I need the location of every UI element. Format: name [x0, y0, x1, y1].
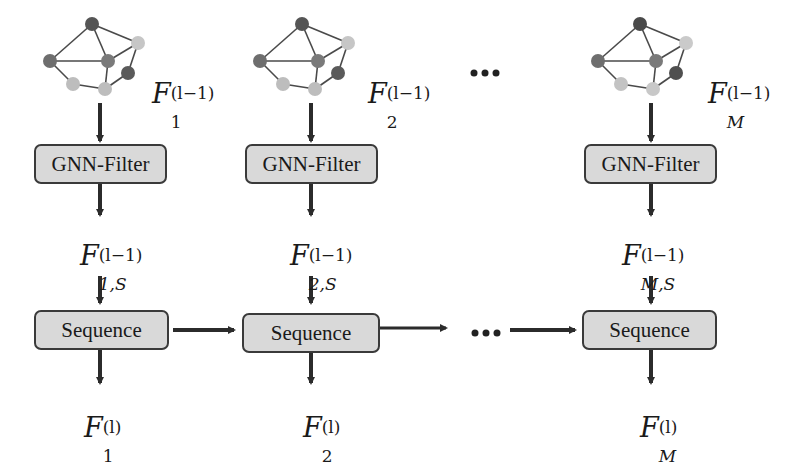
- gnn-filter-box-1[interactable]: GNN-Filter: [34, 144, 167, 184]
- sequence-box-1[interactable]: Sequence: [34, 310, 169, 350]
- graph-label-M: F(l−1)M: [708, 78, 727, 109]
- output-label-1: F(l)1: [84, 412, 103, 443]
- filtered-label-1: F(l−1)1,S: [80, 240, 99, 271]
- graph-label-2: F(l−1)2: [368, 78, 387, 109]
- sequence-box-M[interactable]: Sequence: [582, 310, 717, 350]
- filtered-label-M: F(l−1)M,S: [622, 240, 641, 271]
- filtered-label-2: F(l−1)2,S: [290, 240, 309, 271]
- gnn-filter-box-M[interactable]: GNN-Filter: [584, 144, 717, 184]
- output-label-M: F(l)M: [640, 412, 659, 443]
- diagram-canvas: [0, 0, 800, 465]
- graph-label-1: F(l−1)1: [152, 78, 171, 109]
- graph-icon-M: [591, 17, 693, 96]
- output-label-2: F(l)2: [303, 412, 322, 443]
- gnn-filter-box-2[interactable]: GNN-Filter: [245, 144, 378, 184]
- graph-icon-1: [43, 17, 145, 96]
- ellipsis-middle-icon: [472, 330, 501, 337]
- sequence-box-2[interactable]: Sequence: [242, 313, 380, 353]
- graph-icon-2: [253, 17, 355, 96]
- ellipsis-top-icon: [471, 70, 500, 77]
